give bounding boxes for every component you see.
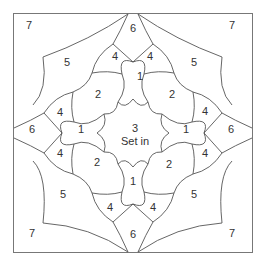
label-4-bottom-left: 4 <box>107 201 113 213</box>
label-5-bottom-right: 5 <box>191 188 197 200</box>
quilt-block-diagram: 7 7 7 7 6 6 6 6 5 5 5 5 4 4 4 4 4 4 4 4 … <box>0 0 269 266</box>
label-2-top-left: 2 <box>95 88 101 100</box>
label-4-left-top: 4 <box>57 106 63 118</box>
label-6-top: 6 <box>130 22 136 34</box>
label-7-bottom-right: 7 <box>229 227 235 239</box>
label-6-right: 6 <box>228 123 234 135</box>
label-1-top: 1 <box>137 70 143 82</box>
label-1-left: 1 <box>78 123 84 135</box>
label-4-top-right: 4 <box>147 50 153 62</box>
label-4-top-left: 4 <box>112 50 118 62</box>
label-4-right-top: 4 <box>202 105 208 117</box>
label-1-right: 1 <box>183 123 189 135</box>
label-4-right-bottom: 4 <box>202 147 208 159</box>
label-4-bottom-right: 4 <box>150 201 156 213</box>
label-3-center: 3 <box>132 122 138 134</box>
label-5-top-left: 5 <box>64 56 70 68</box>
label-set-in: Set in <box>121 135 149 147</box>
label-4-left-bottom: 4 <box>57 147 63 159</box>
label-2-bottom-right: 2 <box>166 158 172 170</box>
label-7-bottom-left: 7 <box>29 227 35 239</box>
label-1-bottom: 1 <box>130 175 136 187</box>
label-7-top-left: 7 <box>26 19 32 31</box>
label-2-bottom-left: 2 <box>94 156 100 168</box>
label-6-left: 6 <box>29 123 35 135</box>
label-5-top-right: 5 <box>191 56 197 68</box>
label-6-bottom: 6 <box>130 228 136 240</box>
label-5-bottom-left: 5 <box>60 188 66 200</box>
label-7-top-right: 7 <box>229 19 235 31</box>
label-2-top-right: 2 <box>169 88 175 100</box>
